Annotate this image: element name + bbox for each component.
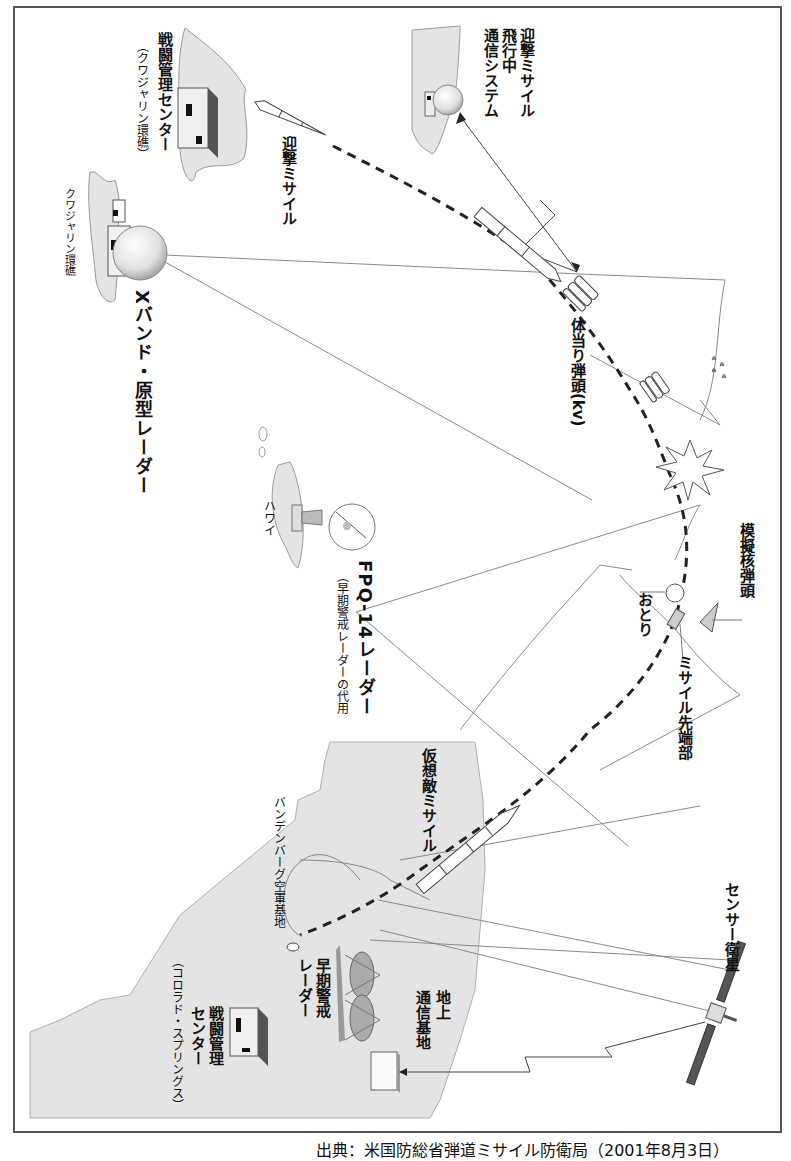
label-interceptor-missile: 迎撃ミサイル <box>280 136 296 226</box>
label-interceptor-comm-line1: 迎撃ミサイル <box>518 28 534 118</box>
label-kwajalein-atoll: クワジャリン環礁 <box>63 188 75 276</box>
label-sensor-satellite: センサー衛星 <box>723 882 739 972</box>
label-fpq14-radar: FPQ-14レーダー <box>355 560 374 716</box>
launch-site-icon <box>287 943 299 951</box>
label-bmc-kwajalein-sub: （クワジャリン環礁） <box>135 40 148 160</box>
source-caption: 出典：米国防総省弾道ミサイル防衛局（2001年8月3日） <box>316 1137 729 1161</box>
label-fpq14-radar-sub: （早期警戒レーダーの代用 <box>335 570 348 714</box>
label-hawaii: ハワイ <box>262 500 275 536</box>
decoy-balloon-icon <box>666 584 684 602</box>
label-interceptor-comm-line2: 飛行中 <box>500 28 516 73</box>
explosion-icon <box>656 440 724 500</box>
dish-antenna-icon <box>292 504 375 550</box>
label-early-warning-radar-line1: 早期警戒 <box>314 958 330 1018</box>
radar-dome-icon <box>113 226 167 280</box>
interceptor-trajectory <box>333 146 672 480</box>
kill-vehicle-icon <box>639 371 670 403</box>
label-kill-vehicle: 体当り弾頭(kv) <box>569 318 585 426</box>
star-field-icon <box>712 356 726 378</box>
label-missile-nose: ミサイル先端部 <box>676 655 692 760</box>
label-vandenberg: バンデンバーグ空軍基地 <box>272 796 285 928</box>
hawaii-islet <box>259 447 265 457</box>
mock-warhead-icon <box>700 603 718 632</box>
label-bmc-colorado-line1: 戦闘管理 <box>207 1006 223 1066</box>
mainland-land <box>30 742 485 1118</box>
interceptor-missile-icon <box>253 97 328 139</box>
label-decoy: おとり <box>636 592 652 637</box>
kill-vehicle-icon <box>562 275 599 312</box>
label-bmc-colorado-line2: センター <box>189 1006 205 1066</box>
label-xband-radar: Xバンド・原型レーダー <box>132 290 151 495</box>
label-bmc-kwajalein: 戦闘管理センター <box>156 32 172 152</box>
label-ground-comm-line2: 通信基地 <box>414 990 430 1050</box>
label-target-missile: 仮想敵ミサイル <box>420 748 436 853</box>
label-ground-comm-line1: 地上 <box>434 990 450 1020</box>
building-icon <box>178 88 218 158</box>
label-early-warning-radar-line2: レーダー <box>296 958 312 1018</box>
label-bmc-colorado-sub: （コロラド・スプリングス） <box>170 955 183 1111</box>
label-mock-warhead: 模擬核弾頭 <box>738 523 754 598</box>
label-interceptor-comm-line3: 通信システム <box>482 28 498 118</box>
missile-nose-icon <box>667 609 685 630</box>
hawaii-islet <box>259 427 267 441</box>
ground-station-icon <box>371 1052 400 1093</box>
